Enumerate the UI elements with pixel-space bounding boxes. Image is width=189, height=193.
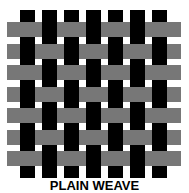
warp-over-crossing xyxy=(64,129,79,146)
warp-over-crossing xyxy=(20,129,35,146)
warp-over-crossing xyxy=(152,86,167,103)
warp-over-crossing xyxy=(42,150,57,167)
warp-over-crossing xyxy=(108,129,123,146)
warp-over-crossing xyxy=(42,21,57,38)
warp-over-crossing xyxy=(86,21,101,38)
warp-over-crossing xyxy=(86,64,101,81)
warp-over-crossing xyxy=(86,107,101,124)
warp-over-crossing xyxy=(130,107,145,124)
warp-over-crossing xyxy=(20,43,35,60)
warp-over-crossing xyxy=(130,150,145,167)
warp-over-crossing xyxy=(108,86,123,103)
warp-over-crossing xyxy=(130,64,145,81)
plain-weave-diagram xyxy=(0,0,189,178)
warp-over-crossing xyxy=(130,21,145,38)
warp-over-crossing xyxy=(152,43,167,60)
warp-over-crossing xyxy=(64,43,79,60)
warp-over-crossing xyxy=(42,64,57,81)
warp-over-crossing xyxy=(42,107,57,124)
diagram-title: PLAIN WEAVE xyxy=(0,179,189,193)
warp-over-crossing xyxy=(20,86,35,103)
warp-over-crossing xyxy=(86,150,101,167)
warp-over-crossing xyxy=(64,86,79,103)
warp-over-crossing xyxy=(152,129,167,146)
warp-over-crossing xyxy=(108,43,123,60)
